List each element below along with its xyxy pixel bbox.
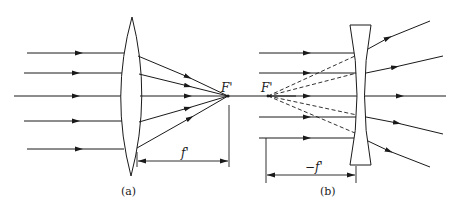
concave-lens: [350, 25, 371, 165]
panel-label-a: (a): [121, 185, 136, 198]
panel-b-concave-lens: F' −f' (b): [259, 21, 446, 198]
virtual-focal-point-b: [267, 95, 270, 98]
figure-caption: [145, 199, 315, 207]
refracted-rays-a: [137, 56, 228, 148]
panel-a-convex-lens: F' f' (a): [14, 17, 296, 198]
focal-length-label-a: f': [180, 146, 189, 160]
virtual-ray-extensions: [268, 56, 357, 133]
lens-focus-diagram: F' f' (a) F': [0, 0, 458, 210]
panel-label-b: (b): [320, 185, 336, 198]
focal-label-a: F': [220, 81, 233, 95]
incoming-rays-a: [14, 53, 124, 149]
refracted-rays-b: [364, 21, 446, 167]
focal-length-label-b: −f': [305, 160, 323, 174]
focal-length-dimension-a: f': [137, 105, 229, 167]
focal-label-b: F': [260, 81, 273, 95]
convex-lens: [121, 17, 142, 176]
focal-length-dimension-b: −f': [266, 138, 356, 183]
